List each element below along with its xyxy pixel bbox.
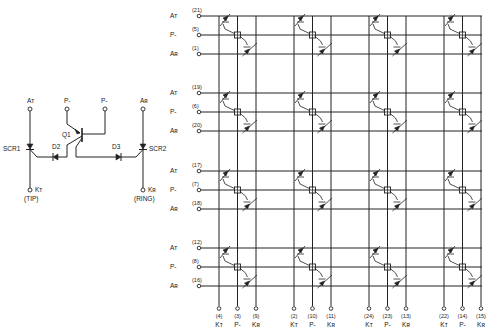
q1-transistor-symbol (67, 111, 105, 157)
row-pin-number: (16) (192, 277, 202, 283)
tip-caption: (TIP) (24, 195, 38, 203)
row-pin-number: (21) (192, 7, 202, 13)
scr1-label: SCR1 (3, 145, 21, 152)
row-pin-number: (19) (192, 84, 202, 90)
row-terminal (197, 284, 201, 288)
protection-array: Aᴛ(21)P-(5)Aʀ(1)Aᴛ(19)P-(6)Aʀ(20)Aᴛ(17)P… (170, 7, 486, 328)
row-label: Aᴛ (170, 89, 177, 96)
row-pin-number: (5) (192, 26, 199, 32)
column-pin-number: (2) (291, 313, 298, 319)
column-terminal (217, 307, 221, 311)
row-label: Aᴛ (170, 244, 177, 251)
column-terminal (442, 307, 446, 311)
row-terminal (197, 169, 201, 173)
row-terminal (197, 110, 201, 114)
column-terminal (236, 307, 240, 311)
q1-label: Q1 (62, 131, 71, 139)
row-label: Aʀ (170, 50, 178, 57)
row-terminal (197, 14, 201, 18)
column-terminal (254, 307, 258, 311)
column-pin-number: (15) (476, 313, 486, 319)
row-terminal (197, 265, 201, 269)
d2-diode-symbol (53, 153, 67, 161)
column-pin-number: (13) (401, 313, 411, 319)
row-label: P- (170, 186, 177, 193)
terminal-cathode-ring (141, 188, 145, 192)
column-pin-number: (24) (364, 313, 374, 319)
column-pin-number: (22) (439, 313, 449, 319)
row-label: P- (170, 108, 177, 115)
column-terminal (404, 307, 408, 311)
row-pin-number: (6) (192, 103, 199, 109)
row-terminal (197, 91, 201, 95)
terminal-cathode-tip (28, 188, 32, 192)
row-label: Aᴛ (170, 12, 177, 19)
column-pin-number: (4) (216, 313, 223, 319)
terminal-anode-tip (28, 107, 32, 111)
column-terminal (386, 307, 390, 311)
row-label: P- (170, 263, 177, 270)
column-label: Kʀ (477, 321, 485, 328)
terminal-label-cathode-ring: Kʀ (148, 186, 156, 193)
row-label: P- (170, 31, 177, 38)
column-label: Kᴛ (365, 321, 372, 328)
row-terminal (197, 188, 201, 192)
terminal-label-anode-tip: Aᴛ (27, 97, 34, 104)
column-label: P- (234, 321, 241, 328)
d3-diode-symbol (116, 153, 136, 161)
row-terminal (197, 207, 201, 211)
scr2-symbol (136, 144, 147, 157)
column-terminal (329, 307, 333, 311)
column-label: Kʀ (402, 321, 410, 328)
d2-label: D2 (52, 143, 61, 150)
terminal-label-pminus-right: P- (101, 97, 108, 104)
single-cell-schematic: Aᴛ SCR1 D2 Kᴛ (TIP) P- P- (3, 97, 167, 203)
column-label: Kʀ (327, 321, 335, 328)
row-pin-number: (12) (192, 239, 202, 245)
terminal-label-pminus-left: P- (64, 97, 71, 104)
column-label: P- (309, 321, 316, 328)
row-terminal (197, 246, 201, 250)
column-pin-number: (14) (458, 313, 468, 319)
row-terminal (197, 52, 201, 56)
terminal-label-anode-ring: Aʀ (140, 97, 148, 104)
column-label: Kᴛ (290, 321, 297, 328)
column-terminal (367, 307, 371, 311)
column-label: Kᴛ (440, 321, 447, 328)
terminal-anode-ring (141, 107, 145, 111)
row-pin-number: (20) (192, 122, 202, 128)
row-terminal (197, 33, 201, 37)
terminal-pminus-right (103, 107, 107, 111)
circuit-diagram: Aᴛ SCR1 D2 Kᴛ (TIP) P- P- (0, 0, 493, 331)
row-terminal (197, 129, 201, 133)
d3-label: D3 (112, 143, 121, 150)
row-label: Aʀ (170, 205, 178, 212)
row-pin-number: (1) (192, 45, 199, 51)
row-pin-number: (7) (192, 181, 199, 187)
scr2-label: SCR2 (149, 145, 167, 152)
row-pin-number: (18) (192, 200, 202, 206)
column-label: P- (459, 321, 466, 328)
column-label: Kʀ (252, 321, 260, 328)
column-pin-number: (23) (383, 313, 393, 319)
scr1-symbol (26, 144, 37, 157)
ring-caption: (RING) (134, 195, 155, 203)
row-pin-number: (17) (192, 162, 202, 168)
row-label: Aᴛ (170, 167, 177, 174)
column-label: P- (384, 321, 391, 328)
row-label: Aʀ (170, 127, 178, 134)
terminal-label-cathode-tip: Kᴛ (35, 186, 42, 193)
row-label: Aʀ (170, 282, 178, 289)
column-pin-number: (10) (308, 313, 318, 319)
terminal-pminus-left (65, 107, 69, 111)
column-terminal (311, 307, 315, 311)
column-terminal (479, 307, 483, 311)
column-pin-number: (9) (253, 313, 260, 319)
column-label: Kᴛ (215, 321, 222, 328)
column-pin-number: (11) (326, 313, 336, 319)
row-pin-number: (8) (192, 258, 199, 264)
column-pin-number: (3) (234, 313, 241, 319)
column-terminal (461, 307, 465, 311)
column-terminal (292, 307, 296, 311)
